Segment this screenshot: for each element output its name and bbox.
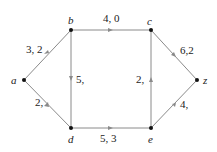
edge-label-b-c: 4, 0 — [103, 13, 120, 24]
node-label-e: e — [148, 134, 153, 145]
node-label-a: a — [11, 75, 17, 86]
arrow-b-d-icon — [69, 76, 73, 81]
node-label-c: c — [147, 16, 152, 27]
edge-label-c-z: 6,2 — [180, 45, 194, 56]
arrow-a-b-icon — [44, 50, 49, 54]
node-c — [149, 28, 153, 32]
node-d — [69, 126, 73, 130]
node-label-d: d — [68, 134, 74, 145]
node-z — [195, 78, 199, 82]
node-e — [149, 126, 153, 130]
arrow-b-c-icon — [108, 28, 113, 32]
arrow-d-e-icon — [108, 126, 113, 130]
edge-label-b-d: 5, — [76, 74, 84, 85]
edge-label-d-e: 5, 3 — [100, 133, 117, 144]
edge-label-a-d: 2, — [35, 97, 43, 108]
node-label-b: b — [68, 15, 74, 26]
edge-label-e-c: 2, — [136, 74, 144, 85]
node-b — [69, 28, 73, 32]
edge-a-b — [24, 30, 71, 80]
node-label-z: z — [203, 75, 207, 86]
edge-label-a-b: 3, 2 — [26, 44, 43, 55]
edge-label-e-z: 4, — [180, 99, 188, 110]
node-a — [22, 78, 26, 82]
arrow-e-c-icon — [149, 77, 153, 82]
